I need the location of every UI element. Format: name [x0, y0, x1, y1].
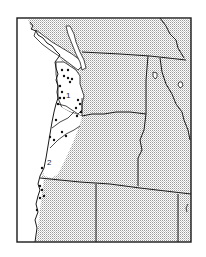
locality-dot [75, 107, 77, 109]
locality-dot [57, 103, 59, 105]
locality-dot [41, 167, 43, 169]
distribution-map: 1 2 [0, 0, 206, 257]
locality-dot [49, 136, 51, 138]
locality-dot [80, 111, 82, 113]
zone-2-label: 2 [47, 158, 52, 167]
locality-dot [77, 99, 79, 101]
locality-dot [53, 139, 55, 141]
locality-dot [67, 69, 69, 71]
locality-dot [61, 91, 63, 93]
locality-dot [43, 195, 45, 197]
locality-dot [36, 209, 38, 211]
locality-dot [79, 103, 81, 105]
locality-dot [63, 97, 65, 99]
locality-dot [55, 119, 57, 121]
locality-dot [67, 77, 69, 79]
locality-dot [41, 189, 43, 191]
locality-dot [76, 115, 78, 117]
zone-1-label: 1 [66, 91, 71, 100]
locality-dot [63, 75, 65, 77]
locality-dot [65, 135, 67, 137]
locality-dot [69, 81, 71, 83]
locality-dot [39, 197, 41, 199]
locality-dot [61, 69, 63, 71]
locality-dot [71, 78, 73, 80]
locality-dot [61, 131, 63, 133]
locality-dot [59, 97, 61, 99]
locality-dot [59, 85, 61, 87]
locality-dot [39, 185, 41, 187]
